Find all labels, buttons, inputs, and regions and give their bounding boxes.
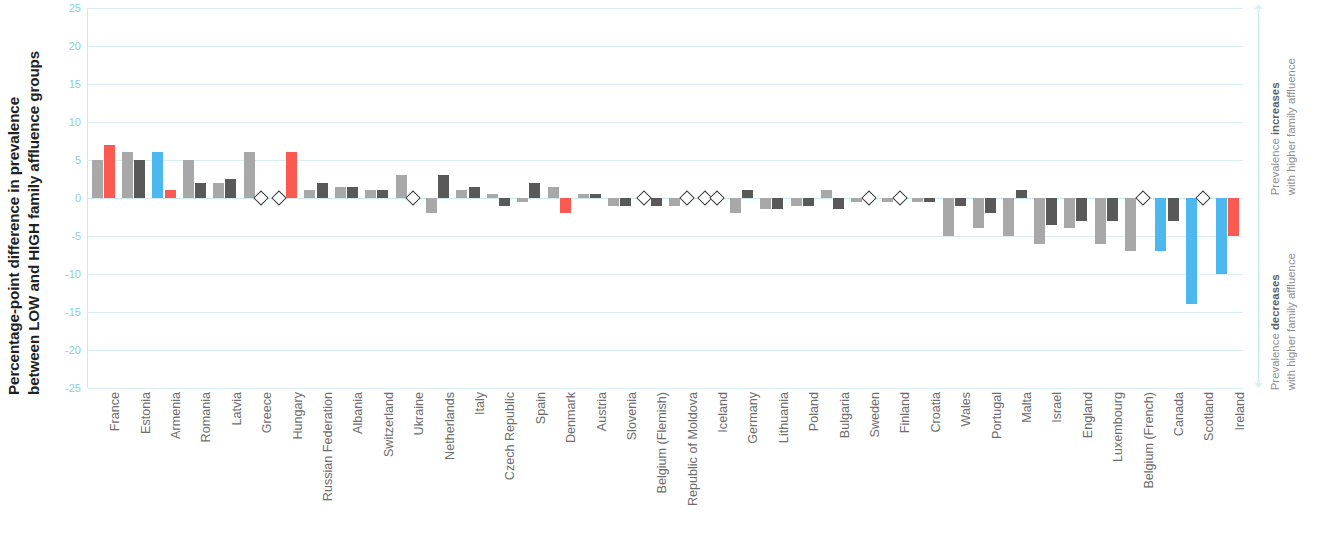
zero-value-marker — [405, 190, 421, 206]
x-axis-label: Germany — [746, 392, 760, 444]
bar — [92, 160, 103, 198]
zero-value-marker — [892, 190, 908, 206]
bar-group — [548, 8, 571, 388]
x-axis-label: France — [108, 392, 122, 431]
bar-group — [791, 8, 814, 388]
bar — [912, 198, 923, 202]
annotation-decreases-pre: Prevalence — [1269, 330, 1281, 390]
bar-group — [304, 8, 327, 388]
x-axis-label: Republic of Moldova — [686, 392, 700, 506]
bar — [1107, 198, 1118, 221]
x-axis-label: Greece — [260, 392, 274, 433]
y-axis-tick: -20 — [41, 344, 87, 356]
bar — [772, 198, 783, 209]
x-axis-label: Slovenia — [625, 392, 639, 440]
bar — [377, 190, 388, 198]
bar-group — [517, 8, 540, 388]
bar — [438, 175, 449, 198]
y-axis-tick: -10 — [41, 268, 87, 280]
bar-group — [1186, 8, 1209, 388]
x-axis-label: Czech Republic — [503, 392, 517, 480]
arrow-up-icon — [1254, 4, 1263, 13]
x-axis-label: Denmark — [564, 392, 578, 443]
bar-group — [1216, 8, 1239, 388]
plot-area: 2520151050-5-10-15-20-25 — [88, 8, 1243, 388]
bar-group — [608, 8, 631, 388]
bar-group — [456, 8, 479, 388]
zero-value-marker — [1196, 190, 1212, 206]
bar — [943, 198, 954, 236]
bar — [487, 194, 498, 198]
bar — [955, 198, 966, 206]
x-axis-label: Latvia — [230, 392, 244, 426]
zero-value-marker — [709, 190, 725, 206]
bar — [529, 183, 540, 198]
x-axis-label: Iceland — [716, 392, 730, 433]
x-axis-label: Armenia — [169, 392, 183, 439]
y-axis-tick: 25 — [41, 2, 87, 14]
x-axis-label: Ukraine — [412, 392, 426, 435]
bar-group — [487, 8, 510, 388]
bar-group — [699, 8, 722, 388]
zero-value-marker — [253, 190, 269, 206]
gridline — [88, 388, 1243, 389]
y-axis-tick: -15 — [41, 306, 87, 318]
bar — [1095, 198, 1106, 244]
bar — [669, 198, 680, 206]
bar — [122, 152, 133, 198]
x-axis-label: Portugal — [990, 392, 1004, 439]
x-axis-label: Estonia — [139, 392, 153, 434]
x-axis-label: Finland — [898, 392, 912, 433]
x-axis-label: Scotland — [1202, 392, 1216, 441]
zero-value-marker — [636, 190, 652, 206]
x-axis-label: Romania — [199, 392, 213, 442]
bar — [134, 160, 145, 198]
annotation-increases-sub: with higher family affluence — [1285, 58, 1297, 195]
bar-group — [943, 8, 966, 388]
x-axis-label: Poland — [807, 392, 821, 431]
bar-group — [365, 8, 388, 388]
annotation-increases-bold: increases — [1269, 82, 1281, 135]
bar-group — [821, 8, 844, 388]
bar — [985, 198, 996, 213]
bar — [183, 160, 194, 198]
x-axis-label: Israel — [1050, 392, 1064, 423]
bar — [882, 198, 893, 202]
x-axis-label: Switzerland — [382, 392, 396, 457]
bar — [195, 183, 206, 198]
zero-value-marker — [1135, 190, 1151, 206]
bar-group — [1125, 8, 1148, 388]
bar-group — [183, 8, 206, 388]
bar — [165, 190, 176, 198]
bar — [335, 187, 346, 198]
x-axis-label: Malta — [1020, 392, 1034, 423]
x-axis-label: Netherlands — [443, 392, 457, 460]
bar — [225, 179, 236, 198]
bar — [791, 198, 802, 206]
annotation-decreases: Prevalence decreases with higher family … — [1268, 195, 1329, 390]
bar — [304, 190, 315, 198]
zero-value-marker — [679, 190, 695, 206]
bar — [365, 190, 376, 198]
bar-group — [426, 8, 449, 388]
x-axis-label: Luxembourg — [1111, 392, 1125, 462]
x-axis-label: Wales — [959, 392, 973, 427]
y-axis-tick: 10 — [41, 116, 87, 128]
bar — [973, 198, 984, 228]
bar-group — [244, 8, 267, 388]
bar — [1125, 198, 1136, 251]
bar — [742, 190, 753, 198]
annotation-increases-pre: Prevalence — [1269, 135, 1281, 195]
bar-group — [1003, 8, 1026, 388]
bar-group — [213, 8, 236, 388]
bar — [347, 187, 358, 198]
x-axis-label: Spain — [534, 392, 548, 424]
bar — [286, 152, 297, 198]
bar-group — [730, 8, 753, 388]
x-axis-label: Austria — [595, 392, 609, 431]
bar-group — [1064, 8, 1087, 388]
zero-value-marker — [861, 190, 877, 206]
bar-group — [578, 8, 601, 388]
bar-group — [912, 8, 935, 388]
bar — [396, 175, 407, 198]
